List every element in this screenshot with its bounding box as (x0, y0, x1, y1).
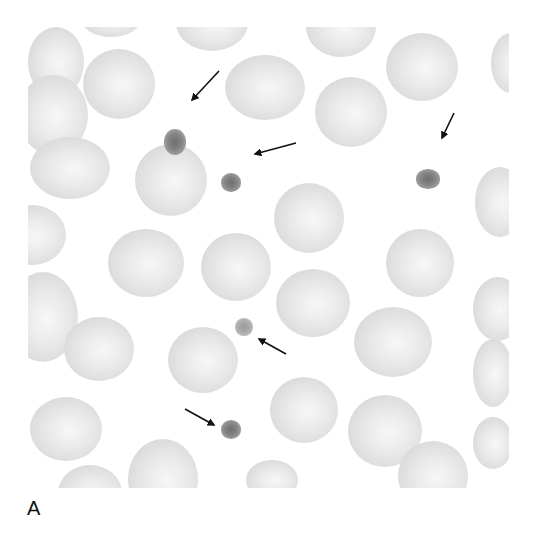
platelet (221, 420, 241, 439)
red-blood-cell (58, 465, 122, 488)
red-blood-cell (28, 205, 66, 265)
red-blood-cell (354, 307, 432, 377)
platelet (164, 129, 186, 155)
red-blood-cell (246, 460, 298, 488)
red-blood-cell (270, 377, 338, 443)
red-blood-cell (274, 183, 344, 253)
red-blood-cell (64, 317, 134, 381)
red-blood-cell (83, 49, 155, 119)
red-blood-cell (491, 33, 509, 93)
red-blood-cell (135, 144, 207, 216)
red-blood-cell (30, 137, 110, 199)
red-blood-cell (473, 339, 509, 407)
red-blood-cell (30, 397, 102, 461)
red-blood-cell (475, 167, 509, 237)
panel-label: A (27, 498, 40, 518)
red-blood-cell (473, 277, 509, 341)
red-blood-cell (315, 77, 387, 147)
red-blood-cell (108, 229, 184, 297)
red-blood-cell (276, 269, 350, 337)
red-blood-cell (176, 27, 248, 51)
red-blood-cell (386, 33, 458, 101)
red-blood-cell (168, 327, 238, 393)
red-blood-cell (386, 229, 454, 297)
red-blood-cell (128, 439, 198, 488)
red-blood-cell (473, 417, 509, 469)
red-blood-cell (225, 55, 305, 120)
platelet (235, 318, 253, 336)
micrograph-image (28, 27, 509, 488)
red-blood-cell (306, 27, 376, 57)
red-blood-cell (80, 27, 142, 37)
platelet (221, 173, 241, 192)
platelet (416, 169, 440, 189)
red-blood-cell (201, 233, 271, 301)
